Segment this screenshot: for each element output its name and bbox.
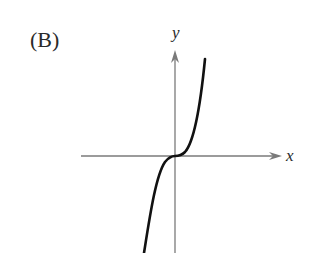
plot-area bbox=[0, 0, 312, 253]
y-axis bbox=[171, 50, 179, 253]
